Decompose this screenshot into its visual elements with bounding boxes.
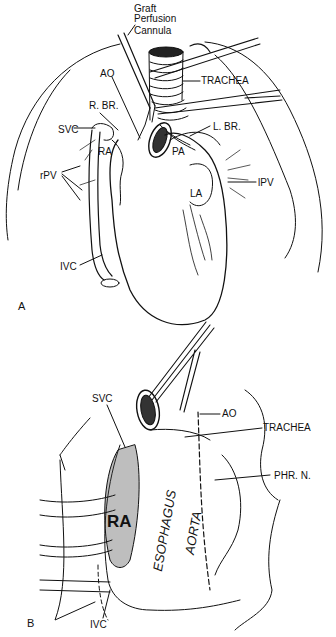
label-ivc: IVC bbox=[60, 261, 77, 272]
label-ra: RA bbox=[98, 146, 112, 157]
lower-retractor bbox=[155, 90, 282, 114]
label-trachea-b: TRACHEA bbox=[263, 422, 311, 433]
label-rpv: rPV bbox=[40, 170, 57, 181]
label-r-br: R. BR. bbox=[89, 100, 118, 111]
label-phr-n: PHR. N. bbox=[274, 470, 311, 481]
leader-svc-b bbox=[107, 405, 125, 447]
label-cannula: Cannula bbox=[134, 25, 171, 36]
clamp-instrument bbox=[148, 322, 214, 412]
leader-ivc-b bbox=[103, 590, 110, 618]
leader-trachea-b bbox=[185, 428, 262, 437]
upper-retractor bbox=[150, 38, 260, 78]
label-ao: AO bbox=[100, 68, 114, 79]
label-svc: SVC bbox=[58, 124, 79, 135]
label-ra-b: RA bbox=[107, 512, 132, 532]
label-svc-b: SVC bbox=[92, 393, 113, 404]
heart-outline bbox=[110, 133, 227, 324]
label-perfusion: Perfusion bbox=[134, 13, 176, 24]
label-lpv: lPV bbox=[258, 177, 274, 188]
leader-ivc bbox=[80, 255, 102, 265]
panel-letter-a: A bbox=[18, 300, 25, 312]
label-la: LA bbox=[190, 188, 202, 199]
label-trachea: TRACHEA bbox=[201, 75, 249, 86]
label-l-br: L. BR. bbox=[213, 121, 241, 132]
right-atrium-b bbox=[105, 445, 139, 568]
label-ivc-b: IVC bbox=[90, 619, 107, 630]
panel-b-drawing bbox=[40, 322, 280, 630]
panel-letter-b: B bbox=[27, 617, 34, 629]
label-pa: PA bbox=[172, 146, 185, 157]
leader-rbr bbox=[100, 113, 118, 130]
label-ao-b: AO bbox=[222, 408, 236, 419]
leader-rpv bbox=[62, 166, 82, 200]
